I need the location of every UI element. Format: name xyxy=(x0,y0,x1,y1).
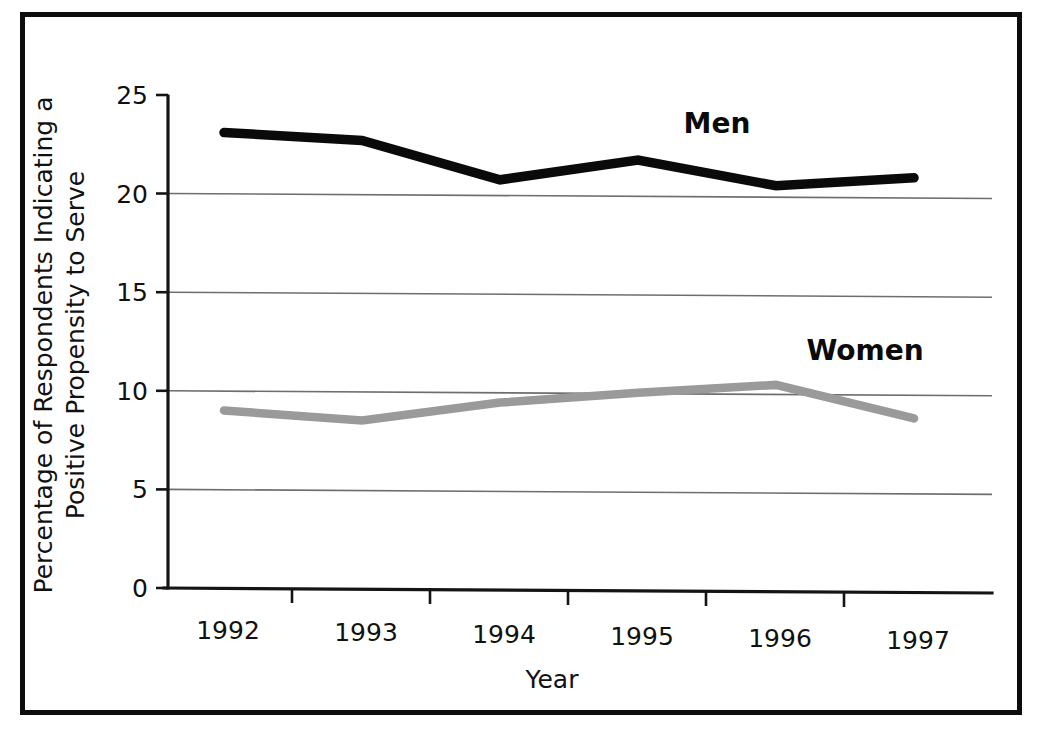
x-axis-title: Year xyxy=(525,665,580,694)
y-axis-tick-labels-group: 25 20 15 10 5 0 xyxy=(116,81,148,603)
series-annotation-women: Women xyxy=(806,334,923,367)
propensity-to-serve-line-chart: 25 20 15 10 5 0 1992 1993 1994 1995 1996… xyxy=(0,0,1040,735)
x-axis-line xyxy=(164,588,992,593)
gridline-y-20 xyxy=(168,194,992,199)
series-line-women xyxy=(224,385,914,421)
x-tick-label-1994: 1994 xyxy=(472,620,536,649)
gridline-y-5 xyxy=(168,489,992,494)
gridline-y-15 xyxy=(168,292,992,297)
y-axis-title-line-1: Percentage of Respondents Indicating a xyxy=(29,97,58,594)
y-tick-label-5: 5 xyxy=(132,475,148,504)
y-axis-title-line-2: Positive Propensity to Serve xyxy=(61,171,90,519)
y-tick-label-20: 20 xyxy=(116,180,148,209)
x-tick-label-1996: 1996 xyxy=(748,624,812,653)
series-annotation-men: Men xyxy=(684,107,751,140)
y-tick-label-0: 0 xyxy=(132,574,148,603)
x-tick-label-1995: 1995 xyxy=(610,622,674,651)
x-tick-label-1997: 1997 xyxy=(886,626,950,655)
series-line-men xyxy=(224,133,914,186)
y-tick-label-25: 25 xyxy=(116,81,148,110)
y-tick-label-10: 10 xyxy=(116,377,148,406)
y-tick-label-15: 15 xyxy=(116,278,148,307)
x-tick-label-1993: 1993 xyxy=(334,618,398,647)
y-axis-ticks-group xyxy=(156,95,168,588)
x-tick-label-1992: 1992 xyxy=(196,616,260,645)
y-axis-title-group: Percentage of Respondents Indicating a P… xyxy=(29,97,90,594)
x-axis-tick-labels-group: 1992 1993 1994 1995 1996 1997 xyxy=(196,616,950,655)
